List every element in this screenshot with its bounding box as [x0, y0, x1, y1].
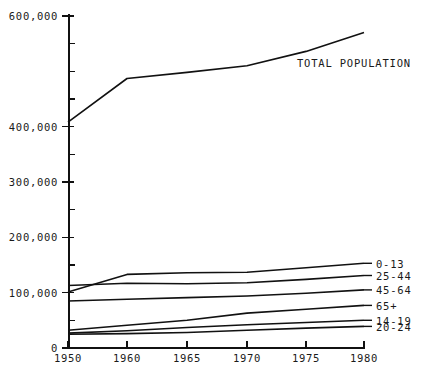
population-line-chart: 0100,000200,000300,000400,000600,000 195…	[0, 0, 421, 380]
series-label-65: 65+	[376, 300, 397, 312]
series-label-0-13: 0-13	[376, 258, 405, 270]
series-line-total-population	[68, 33, 364, 123]
series-label-25-44: 25-44	[376, 270, 412, 282]
series-line-25-44	[68, 276, 364, 286]
series-line-20-24	[68, 326, 364, 334]
series-label-20-24: 20-24	[376, 321, 412, 333]
series-label-total-population: TOTAL POPULATION	[297, 57, 411, 69]
series-label-45-64: 45-64	[376, 284, 412, 296]
series-line-45-64	[68, 290, 364, 301]
